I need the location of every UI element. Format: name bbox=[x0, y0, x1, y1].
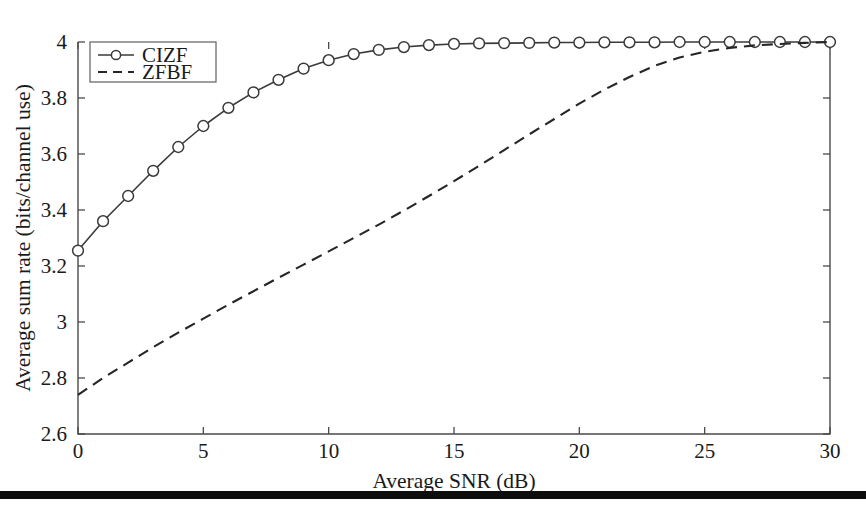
data-point-cizf-18 bbox=[524, 37, 535, 48]
y-tick-label-3.2: 3.2 bbox=[41, 254, 67, 278]
data-point-cizf-6 bbox=[223, 102, 234, 113]
data-point-cizf-22 bbox=[624, 37, 635, 48]
series-line-zfbf bbox=[78, 42, 830, 395]
data-point-cizf-10 bbox=[323, 55, 334, 66]
y-tick-label-3.4: 3.4 bbox=[41, 198, 68, 222]
data-point-cizf-7 bbox=[248, 87, 259, 98]
data-point-cizf-2 bbox=[123, 191, 134, 202]
x-tick-label-30: 30 bbox=[820, 439, 841, 463]
data-point-cizf-13 bbox=[398, 42, 409, 53]
data-point-cizf-3 bbox=[148, 165, 159, 176]
x-tick-label-20: 20 bbox=[569, 439, 590, 463]
x-tick-label-0: 0 bbox=[73, 439, 84, 463]
data-point-cizf-12 bbox=[373, 44, 384, 55]
data-point-cizf-16 bbox=[474, 38, 485, 49]
data-point-cizf-24 bbox=[674, 37, 685, 48]
x-tick-label-25: 25 bbox=[694, 439, 715, 463]
y-tick-label-3.6: 3.6 bbox=[41, 142, 67, 166]
data-point-cizf-21 bbox=[599, 37, 610, 48]
data-point-cizf-23 bbox=[649, 37, 660, 48]
data-point-cizf-5 bbox=[198, 121, 209, 132]
y-tick-label-4: 4 bbox=[57, 30, 68, 54]
y-axis-title: Average sum rate (bits/channel use) bbox=[11, 84, 35, 392]
y-tick-label-3.8: 3.8 bbox=[41, 86, 67, 110]
data-point-cizf-19 bbox=[549, 37, 560, 48]
data-point-cizf-26 bbox=[724, 37, 735, 48]
x-tick-label-5: 5 bbox=[198, 439, 209, 463]
data-point-cizf-1 bbox=[98, 216, 109, 227]
data-point-cizf-11 bbox=[348, 49, 359, 60]
figure-container: 0510152025302.62.833.23.43.63.84Average … bbox=[0, 0, 866, 509]
y-tick-label-3: 3 bbox=[57, 310, 68, 334]
data-point-cizf-28 bbox=[774, 37, 785, 48]
line-chart: 0510152025302.62.833.23.43.63.84Average … bbox=[0, 0, 866, 509]
data-point-cizf-4 bbox=[173, 142, 184, 153]
legend-label-zfbf: ZFBF bbox=[142, 60, 192, 84]
data-point-cizf-20 bbox=[574, 37, 585, 48]
data-point-cizf-8 bbox=[273, 74, 284, 85]
axis-frame bbox=[78, 42, 830, 434]
x-axis-title: Average SNR (dB) bbox=[372, 469, 535, 493]
data-point-cizf-17 bbox=[499, 38, 510, 49]
data-point-cizf-14 bbox=[424, 40, 435, 51]
y-tick-label-2.8: 2.8 bbox=[41, 366, 67, 390]
data-point-cizf-25 bbox=[699, 37, 710, 48]
data-point-cizf-0 bbox=[73, 245, 84, 256]
legend-marker-cizf bbox=[111, 50, 120, 59]
footer-rule bbox=[0, 491, 866, 499]
x-tick-label-10: 10 bbox=[318, 439, 339, 463]
y-tick-label-2.6: 2.6 bbox=[41, 422, 67, 446]
x-tick-label-15: 15 bbox=[444, 439, 465, 463]
data-point-cizf-15 bbox=[449, 39, 460, 50]
data-point-cizf-9 bbox=[298, 63, 309, 74]
